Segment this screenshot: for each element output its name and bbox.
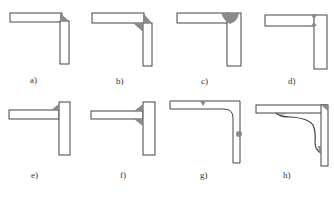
- panel-label-g: g): [200, 170, 208, 180]
- panel-f: f): [91, 102, 155, 180]
- horizontal-plate: [265, 15, 315, 26]
- panel-e: e): [9, 102, 70, 180]
- horizontal-plate: [91, 111, 143, 119]
- vertical-plate: [59, 102, 70, 155]
- weld-joint-diagram: a) b) c) d) e) f): [0, 0, 334, 197]
- panel-b: b): [92, 13, 152, 86]
- vertical-plate: [60, 21, 69, 64]
- curved-stiffener: [276, 113, 321, 153]
- panel-label-b: b): [116, 76, 124, 86]
- horizontal-plate: [177, 13, 228, 23]
- horizontal-plate: [10, 13, 62, 22]
- fillet-weld: [51, 104, 59, 110]
- panel-h: h): [256, 105, 328, 180]
- panel-g: g): [170, 101, 242, 180]
- bent-plate: [170, 101, 240, 163]
- panel-label-h: h): [283, 170, 291, 180]
- panel-label-a: a): [30, 75, 37, 85]
- panel-a: a): [10, 13, 69, 85]
- vertical-plate: [314, 15, 327, 69]
- side-weld: [236, 131, 242, 137]
- panel-label-d: d): [288, 76, 296, 86]
- vertical-plate: [143, 23, 152, 66]
- panel-label-f: f): [120, 170, 126, 180]
- vertical-plate: [321, 105, 328, 166]
- panel-label-e: e): [31, 170, 38, 180]
- vertical-plate: [143, 102, 155, 155]
- horizontal-plate: [256, 105, 327, 113]
- horizontal-plate: [92, 13, 144, 23]
- panel-c: c): [177, 13, 241, 86]
- panel-d: d): [265, 15, 327, 86]
- inside-fillet-weld: [133, 23, 143, 32]
- lower-fillet-weld: [134, 119, 143, 126]
- upper-fillet-weld: [134, 104, 143, 111]
- horizontal-plate: [9, 110, 59, 119]
- panel-label-c: c): [201, 76, 208, 86]
- fillet-weld: [60, 13, 69, 21]
